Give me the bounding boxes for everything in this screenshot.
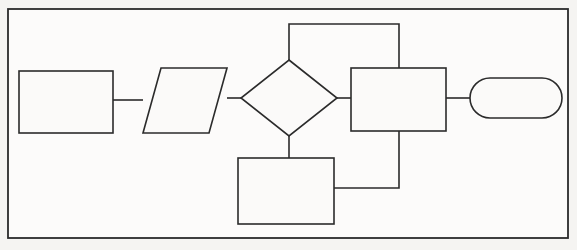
node-process-3[interactable]: [238, 158, 334, 224]
flowchart-diagram: [0, 0, 577, 250]
flowchart-canvas: [0, 0, 577, 250]
node-process-1[interactable]: [19, 71, 113, 133]
node-terminator[interactable]: [470, 78, 562, 118]
node-process-2[interactable]: [351, 68, 446, 131]
